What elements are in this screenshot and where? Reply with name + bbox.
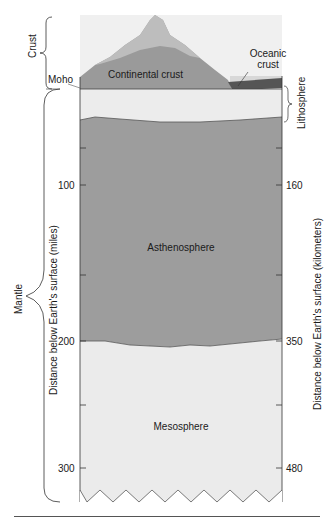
right-tick-label-350: 350	[286, 336, 303, 347]
crust-label: Crust	[27, 34, 38, 58]
mesosphere-label: Mesosphere	[153, 421, 208, 432]
right-tick-label-480: 480	[286, 463, 303, 474]
oceanic-crust-label-line1: Oceanic	[250, 48, 287, 59]
left-tick-label-100: 100	[58, 180, 75, 191]
asthenosphere-label: Asthenosphere	[147, 242, 214, 253]
moho-label: Moho	[48, 74, 73, 85]
continental-crust-label: Continental crust	[108, 69, 183, 80]
left-tick-label-200: 200	[58, 336, 75, 347]
mantle-label: Mantle	[13, 284, 24, 314]
oceanic-crust-label-line2: crust	[257, 59, 279, 70]
right-tick-label-160: 160	[286, 180, 303, 191]
lithosphere-brace	[284, 86, 292, 122]
left-axis-title: Distance below Earth's surface (miles)	[48, 225, 59, 395]
right-axis-title: Distance below Earth's surface (kilomete…	[312, 218, 323, 410]
left-tick-label-300: 300	[58, 463, 75, 474]
bottom-rule	[14, 516, 320, 517]
asthenosphere-layer	[80, 117, 282, 347]
lithospheric-mantle-layer	[80, 89, 282, 122]
lithosphere-label: Lithosphere	[296, 77, 307, 129]
